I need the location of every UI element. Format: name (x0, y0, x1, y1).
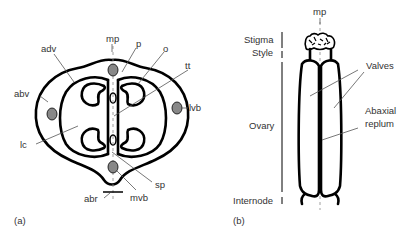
label-abr: abr (84, 193, 98, 204)
label-abv: abv (14, 88, 30, 99)
ovule-top-left (82, 84, 105, 106)
label-o: o (163, 43, 168, 54)
caption-a: (a) (14, 215, 26, 226)
ovule-bottom-right (121, 129, 144, 151)
label-lc: lc (20, 139, 27, 150)
label-abaxial: Abaxial (365, 105, 396, 116)
ovule-bottom-left (82, 129, 105, 151)
label-style: Style (252, 47, 273, 58)
label-valves: Valves (366, 60, 394, 71)
caption-b: (b) (233, 215, 245, 226)
gynoecium-diagram: mp p o adv tt abv lvb lc sp mvb abr (a) (0, 0, 411, 240)
label-p: p (136, 38, 141, 49)
ovule-top-right (121, 84, 144, 106)
label-lvb: lvb (189, 102, 201, 113)
label-mp-b: mp (313, 6, 326, 17)
panel-a-cross-section: mp p o adv tt abv lvb lc sp mvb abr (a) (14, 33, 201, 226)
lateral-vascular-bundle-right (172, 102, 182, 114)
label-adv: adv (41, 43, 57, 54)
label-mvb: mvb (130, 192, 148, 203)
label-ovary: Ovary (249, 120, 275, 131)
lateral-vascular-bundle-left (47, 108, 57, 120)
label-sp: sp (155, 179, 165, 190)
median-vascular-bundle-top (108, 64, 118, 76)
label-stigma: Stigma (244, 34, 274, 45)
panel-b-longitudinal: mp Stigma Style Ovary Internode Valves A… (233, 6, 396, 226)
valve-left (299, 60, 319, 196)
median-vascular-bundle (108, 161, 118, 173)
label-mp-a: mp (106, 33, 119, 44)
label-internode: Internode (233, 195, 273, 206)
label-replum: replum (365, 118, 394, 129)
label-tt: tt (185, 60, 191, 71)
